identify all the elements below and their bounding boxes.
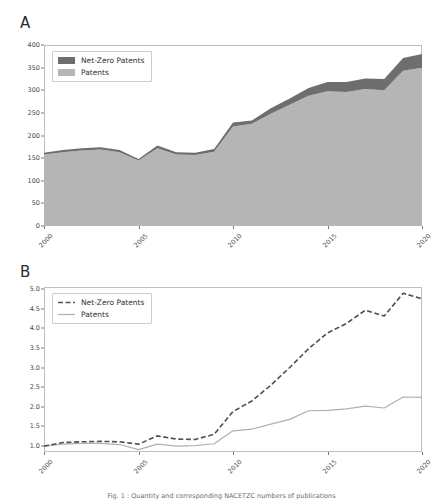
legend-color-swatch-icon (58, 69, 75, 76)
panel-a-legend-item: Patents (58, 68, 144, 77)
panel-b-label: B (20, 263, 31, 281)
x-tick-label: 2020 (415, 458, 432, 475)
x-tick-label: 2010 (226, 232, 243, 249)
legend-color-swatch-icon (58, 57, 75, 64)
y-tick-mark (41, 90, 44, 91)
panel-a-plot-area: 050100150200250300350400 200020052010201… (44, 45, 422, 226)
y-tick-mark (41, 112, 44, 113)
y-tick-mark (41, 387, 44, 388)
x-tick-label: 2000 (37, 458, 54, 475)
x-tick-mark (233, 452, 234, 455)
legend-label: Net-Zero Patents (81, 56, 144, 65)
y-tick-label: 250 (28, 109, 40, 117)
panel-b-legend-item: Patents (58, 310, 144, 319)
legend-dashed-line-icon (58, 299, 75, 306)
y-tick-mark (41, 158, 44, 159)
y-tick-mark (41, 426, 44, 427)
x-tick-label: 2015 (321, 232, 338, 249)
y-tick-mark (41, 446, 44, 447)
y-tick-label: 200 (28, 132, 40, 140)
panel-a-legend: Net-Zero PatentsPatents (52, 51, 152, 82)
y-tick-mark (41, 203, 44, 204)
panel-b-legend-item: Net-Zero Patents (58, 298, 144, 307)
figure-caption: Fig. 1 : Quantity and corresponding NACE… (0, 492, 443, 500)
y-tick-mark (41, 308, 44, 309)
y-tick-mark (41, 135, 44, 136)
y-tick-label: 3.5 (30, 344, 40, 352)
x-tick-label: 2020 (415, 232, 432, 249)
y-tick-mark (41, 328, 44, 329)
y-tick-label: 4.0 (30, 324, 40, 332)
x-tick-mark (139, 226, 140, 229)
y-tick-label: 1.5 (30, 422, 40, 430)
y-tick-label: 5.0 (30, 285, 40, 293)
legend-label: Patents (81, 310, 109, 319)
x-tick-label: 2005 (132, 458, 149, 475)
x-tick-mark (44, 226, 45, 229)
legend-label: Net-Zero Patents (81, 298, 144, 307)
x-tick-mark (422, 226, 423, 229)
y-tick-label: 100 (28, 177, 40, 185)
x-tick-mark (422, 452, 423, 455)
legend-solid-line-icon (58, 311, 75, 318)
y-tick-label: 2.5 (30, 383, 40, 391)
y-tick-label: 400 (28, 41, 40, 49)
y-tick-mark (41, 67, 44, 68)
y-tick-label: 2.0 (30, 403, 40, 411)
y-tick-label: 50 (32, 199, 40, 207)
y-tick-label: 350 (28, 64, 40, 72)
y-tick-mark (41, 406, 44, 407)
x-tick-label: 2010 (226, 458, 243, 475)
panel-b-plot-area: 1.01.52.02.53.03.54.04.55.0 200020052010… (44, 287, 422, 452)
y-tick-mark (41, 180, 44, 181)
x-tick-mark (233, 226, 234, 229)
panel-a: A 050100150200250300350400 2000200520102… (0, 0, 443, 258)
x-tick-label: 2000 (37, 232, 54, 249)
figure-root: A 050100150200250300350400 2000200520102… (0, 0, 443, 502)
y-tick-mark (41, 347, 44, 348)
y-tick-label: 0 (36, 222, 40, 230)
panel-b-legend: Net-Zero PatentsPatents (52, 293, 152, 324)
panel-a-label: A (20, 14, 30, 32)
y-tick-label: 300 (28, 86, 40, 94)
x-tick-mark (44, 452, 45, 455)
y-tick-mark (41, 45, 44, 46)
y-tick-label: 3.0 (30, 364, 40, 372)
y-tick-label: 4.5 (30, 305, 40, 313)
y-tick-label: 1.0 (30, 442, 40, 450)
panel-b: B 1.01.52.02.53.03.54.04.55.0 2000200520… (0, 255, 443, 502)
legend-label: Patents (81, 68, 109, 77)
y-tick-mark (41, 288, 44, 289)
x-tick-mark (328, 226, 329, 229)
y-tick-mark (41, 367, 44, 368)
panel-a-legend-item: Net-Zero Patents (58, 56, 144, 65)
x-tick-mark (328, 452, 329, 455)
x-tick-label: 2015 (321, 458, 338, 475)
x-tick-label: 2005 (132, 232, 149, 249)
x-tick-mark (139, 452, 140, 455)
y-tick-label: 150 (28, 154, 40, 162)
